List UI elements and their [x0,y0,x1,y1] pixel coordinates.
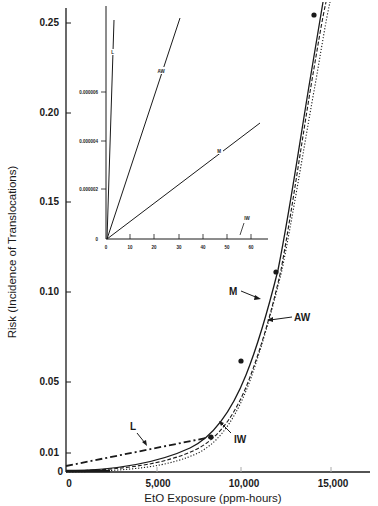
inset-x-tick-60: 60 [248,245,254,250]
y-tick-005: 0.05 [40,376,60,387]
chart-canvas: 0.25 0.20 0.15 0.10 0.05 0.01 0 0 5,000 … [0,0,378,506]
inset-x-tick-40: 40 [200,245,206,250]
inset-y-tick-0: 0 [95,237,98,242]
y-tick-015: 0.15 [40,196,60,207]
data-point [238,358,243,363]
x-tick-0: 0 [66,478,72,489]
inset-chart: 0.000006 0.000004 0.000002 0 0 10 20 30 … [79,6,268,250]
inset-y-ticks [101,92,106,189]
inset-line-m [107,123,260,239]
inset-line-aw [107,18,180,239]
observed-points [208,12,316,439]
inset-x-tick-10: 10 [127,245,133,250]
y-tick-020: 0.20 [40,107,60,118]
y-axis-title: Risk (Incidence of Translocations) [6,166,18,339]
x-axis-title: EtO Exposure (ppm-hours) [144,492,282,504]
arrowhead-m [254,295,261,300]
label-m: M [229,286,237,297]
y-tick-labels: 0.25 0.20 0.15 0.10 0.05 0.01 0 [40,17,64,477]
inset-x-tick-30: 30 [176,245,182,250]
inset-x-ticks [130,234,251,239]
x-tick-5000: 5,000 [145,478,170,489]
inset-label-iw: IW [244,216,250,221]
curve-m [66,2,323,471]
label-l: L [130,421,136,432]
data-point [273,269,278,274]
inset-y-tick-4: 0.000004 [79,139,98,144]
inset-label-aw: AW [157,69,165,74]
y-tick-0: 0 [57,466,63,477]
label-aw: AW [294,312,311,323]
inset-arrow-iw [240,223,244,235]
inset-y-tick-2: 0.000002 [79,187,98,192]
y-tick-010: 0.10 [40,286,60,297]
data-point [311,12,316,17]
inset-x-tick-20: 20 [151,245,157,250]
y-tick-001: 0.01 [40,447,60,458]
x-tick-labels: 0 5,000 10,000 15,000 [66,478,349,489]
y-tick-025: 0.25 [40,17,60,28]
inset-y-tick-6: 0.000006 [79,90,98,95]
curve-l [66,437,211,466]
inset-x-tick-0: 0 [105,245,108,250]
x-tick-10000: 10,000 [229,478,260,489]
inset-label-m: M [217,149,221,154]
label-iw: IW [234,434,247,445]
curve-aw [66,2,326,471]
inset-label-l: L [111,50,114,55]
x-ticks [157,467,331,472]
data-point [208,434,213,439]
y-ticks [66,23,71,453]
x-tick-15000: 15,000 [318,478,349,489]
inset-x-tick-50: 50 [224,245,230,250]
arrow-aw [270,317,292,320]
